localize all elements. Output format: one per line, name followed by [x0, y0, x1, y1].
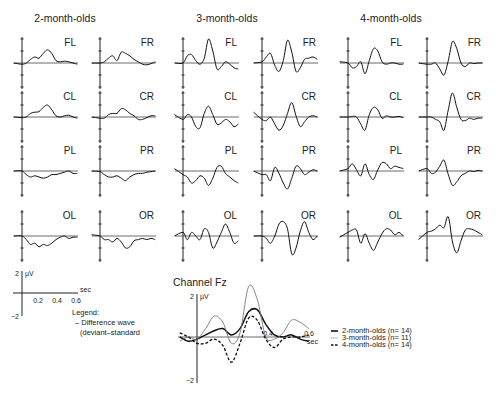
channel-label: OR: [139, 210, 154, 221]
difference-wave-PL: [175, 166, 239, 186]
panel-2-month-olds-PR: PR: [92, 145, 157, 197]
difference-wave-CL: [340, 107, 404, 130]
erp-figure: 2-month-olds 3-month-olds 4-month-olds F…: [0, 0, 496, 398]
scale-y-label: µV: [25, 270, 34, 278]
channel-label: CL: [63, 91, 76, 102]
scale-x-tick: 0.4: [52, 297, 62, 304]
channel-label: CL: [389, 91, 402, 102]
fz-y-tick-top: 2: [190, 293, 194, 300]
scale-x-label: sec: [80, 286, 91, 293]
channel-label: CR: [302, 91, 316, 102]
fz-panel: Channel Fz 2 µV −2 0.4 0.6 sec: [173, 276, 318, 384]
panel-2-month-olds-OL: OL: [14, 210, 79, 262]
fz-series-solid: [180, 309, 309, 342]
difference-wave-CL: [175, 106, 239, 129]
difference-wave-OL: [14, 236, 78, 247]
difference-wave-PR: [254, 166, 318, 189]
channel-label: FL: [390, 37, 402, 48]
channel-label: CL: [224, 91, 237, 102]
group-title-3-month: 3-month-olds: [196, 12, 257, 24]
panel-3-month-olds-FR: FR: [254, 37, 319, 89]
panel-4-month-olds-OL: OL: [340, 210, 405, 262]
legend-item: (deviant–standard: [80, 328, 140, 337]
channel-label: PR: [302, 145, 316, 156]
channel-label: PL: [390, 145, 403, 156]
difference-wave-PR: [92, 171, 156, 181]
difference-wave-PR: [419, 160, 483, 186]
channel-label: PL: [225, 145, 238, 156]
fz-x-tick: 0.6: [304, 330, 314, 337]
legend-title: Legend:: [72, 308, 99, 317]
group-title-2-month: 2-month-olds: [34, 12, 95, 24]
fz-y-tick-bottom: −2: [186, 377, 194, 384]
scale-x-tick: 0.6: [71, 297, 81, 304]
channel-label: OL: [63, 210, 77, 221]
channel-label: PR: [140, 145, 154, 156]
panel-2-month-olds-OR: OR: [92, 210, 157, 262]
channel-label: PR: [467, 145, 481, 156]
panel-4-month-olds-FL: FL: [340, 37, 405, 89]
panel-4-month-olds-OR: OR: [419, 210, 484, 262]
panel-2-month-olds-FL: FL: [14, 37, 79, 89]
fz-y-label: µV: [200, 293, 209, 301]
scale-y-tick-top: 2: [15, 270, 19, 277]
fz-title: Channel Fz: [173, 276, 227, 288]
panel-4-month-olds-PL: PL: [340, 145, 405, 197]
panel-3-month-olds-OL: OL: [175, 210, 240, 262]
difference-wave-CR: [254, 103, 318, 131]
scale-x-tick: 0.2: [33, 297, 43, 304]
panel-3-month-olds-CR: CR: [254, 91, 319, 143]
channel-label: OR: [301, 210, 316, 221]
channel-label: FR: [303, 37, 316, 48]
panel-3-month-olds-PR: PR: [254, 145, 319, 197]
channel-label: FR: [141, 37, 154, 48]
channel-label: CR: [467, 91, 481, 102]
scale-y-tick-bottom: −2: [11, 313, 19, 320]
channel-label: CR: [140, 91, 154, 102]
panel-4-month-olds-CL: CL: [340, 91, 405, 143]
difference-wave-FL: [340, 48, 404, 74]
scale-legend: 2 µV −2 sec 0.2 0.4 0.6 Legend: – Differ…: [11, 270, 140, 337]
panel-2-month-olds-PL: PL: [14, 145, 79, 197]
channel-panels: FLFRCLCRPLPROLORFLFRCLCRPLPROLORFLFRCLCR…: [14, 37, 484, 262]
difference-wave-PL: [14, 171, 78, 178]
panel-2-month-olds-CR: CR: [92, 91, 157, 143]
panel-2-month-olds-CL: CL: [14, 91, 79, 143]
channel-label: OL: [224, 210, 238, 221]
channel-label: OL: [389, 210, 403, 221]
channel-label: FR: [468, 37, 481, 48]
difference-wave-OL: [340, 229, 404, 251]
panel-2-month-olds-FR: FR: [92, 37, 157, 89]
panel-3-month-olds-OR: OR: [254, 210, 319, 262]
legend-label-4-month: 4-month-olds (n= 14): [342, 340, 412, 349]
difference-wave-CR: [92, 108, 156, 119]
difference-wave-FL: [14, 50, 78, 64]
group-title-4-month: 4-month-olds: [360, 12, 421, 24]
difference-wave-CL: [14, 105, 78, 118]
panel-4-month-olds-FR: FR: [419, 37, 484, 89]
channel-label: FL: [225, 37, 237, 48]
panel-3-month-olds-PL: PL: [175, 145, 240, 197]
difference-wave-OR: [254, 221, 318, 255]
difference-wave-OR: [92, 235, 156, 249]
panel-4-month-olds-PR: PR: [419, 145, 484, 197]
panel-3-month-olds-FL: FL: [175, 37, 240, 89]
panel-4-month-olds-CR: CR: [419, 91, 484, 143]
legend-item: – Difference wave: [75, 318, 135, 327]
difference-wave-OR: [419, 216, 483, 252]
channel-label: OR: [466, 210, 481, 221]
channel-label: PL: [64, 145, 77, 156]
fz-legend: 2-month-olds (n= 14) 3-month-olds (n= 11…: [331, 326, 412, 349]
channel-label: FL: [64, 37, 76, 48]
panel-3-month-olds-CL: CL: [175, 91, 240, 143]
